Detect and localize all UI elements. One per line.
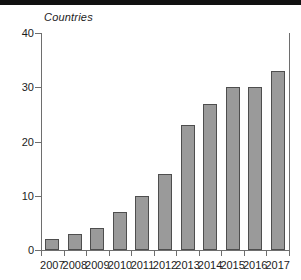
x-tick-label: 2014: [198, 259, 222, 271]
bar[interactable]: [113, 212, 127, 250]
plot-area: [41, 33, 289, 250]
x-tick-label: 2017: [265, 259, 289, 271]
y-tick-label: 20: [6, 136, 34, 148]
x-tick-label: 2016: [243, 259, 267, 271]
bar[interactable]: [90, 228, 104, 250]
x-tick-mark: [109, 251, 110, 256]
x-tick-mark: [64, 251, 65, 256]
bar[interactable]: [158, 174, 172, 250]
bar[interactable]: [45, 239, 59, 250]
x-tick-label: 2010: [108, 259, 132, 271]
x-tick-label: 2007: [40, 259, 64, 271]
x-tick-mark: [289, 251, 290, 256]
x-tick-mark: [221, 251, 222, 256]
x-tick-label: 2013: [175, 259, 199, 271]
chart-page: Countries 010203040 20072008200920102011…: [0, 0, 301, 280]
x-tick-mark: [199, 251, 200, 256]
bar[interactable]: [203, 104, 217, 250]
x-tick-mark: [176, 251, 177, 256]
bar[interactable]: [226, 87, 240, 250]
plot-right-border: [289, 33, 290, 251]
y-tick-label: 40: [6, 27, 34, 39]
x-tick-mark: [86, 251, 87, 256]
x-tick-mark: [266, 251, 267, 256]
y-tick-label: 10: [6, 190, 34, 202]
y-axis-title: Countries: [44, 11, 93, 23]
x-tick-label: 2015: [220, 259, 244, 271]
bar[interactable]: [248, 87, 262, 250]
bar[interactable]: [68, 234, 82, 250]
x-tick-mark: [244, 251, 245, 256]
bar-chart: Countries 010203040 20072008200920102011…: [0, 0, 301, 280]
bar[interactable]: [135, 196, 149, 250]
x-tick-label: 2012: [153, 259, 177, 271]
x-axis-line: [41, 250, 290, 251]
x-tick-mark: [131, 251, 132, 256]
x-tick-label: 2008: [63, 259, 87, 271]
x-tick-label: 2009: [85, 259, 109, 271]
x-tick-mark: [41, 251, 42, 256]
y-tick-label: 30: [6, 81, 34, 93]
bar[interactable]: [271, 71, 285, 250]
x-tick-mark: [154, 251, 155, 256]
bar[interactable]: [181, 125, 195, 250]
x-tick-label: 2011: [131, 259, 155, 271]
y-tick-label: 0: [6, 244, 34, 256]
